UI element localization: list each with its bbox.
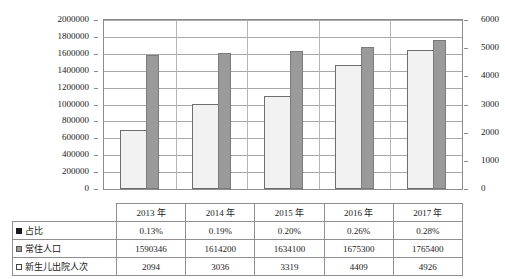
plot-area [103, 19, 463, 190]
left-axis-tick-label: 200000 [62, 167, 89, 176]
bar-resident-population [218, 53, 231, 189]
chart-area: 0200000400000600000800000100000012000001… [0, 0, 505, 196]
series-legend-label: 占比 [13, 222, 117, 240]
left-axis-tick-mark [94, 155, 98, 156]
table-row: 常住人口15903461614200163410016753001765400 [13, 240, 463, 258]
series-legend-label: 常住人口 [13, 240, 117, 258]
series-name-text: 新生儿出院人次 [25, 262, 88, 272]
left-axis-tick-mark [94, 54, 98, 55]
left-axis-tick-mark [94, 105, 98, 106]
left-axis-tick-label: 1200000 [58, 83, 90, 92]
right-axis-tick-label: 1000 [481, 156, 499, 165]
chart-figure: 0200000400000600000800000100000012000001… [0, 0, 505, 279]
left-axis-tick-label: 600000 [62, 133, 89, 142]
data-cell: 2094 [117, 258, 186, 276]
table-row: 占比0.13%0.19%0.20%0.26%0.28% [13, 222, 463, 240]
data-cell: 0.19% [186, 222, 255, 240]
data-cell: 4409 [324, 258, 393, 276]
bar-resident-population [433, 40, 446, 189]
right-axis-tick-label: 2000 [481, 128, 499, 137]
left-axis-tick-label: 1600000 [58, 49, 90, 58]
series-name-text: 占比 [25, 226, 43, 236]
left-axis-tick-mark [94, 88, 98, 89]
data-cell: 0.13% [117, 222, 186, 240]
right-axis-tick-label: 5000 [481, 43, 499, 52]
bar-newborn-discharges [335, 65, 364, 189]
bar-newborn-discharges [264, 96, 293, 189]
right-axis-tick-mark [464, 105, 468, 106]
right-axis-tick-mark [464, 20, 468, 21]
category-divider [176, 20, 177, 189]
table-corner-cell [13, 204, 117, 222]
left-axis-tick-mark [94, 138, 98, 139]
bar-newborn-discharges [120, 130, 149, 189]
data-cell: 1614200 [186, 240, 255, 258]
right-axis-tick-label: 0 [481, 184, 486, 193]
left-axis-tick-mark [94, 189, 98, 190]
left-axis-tick-label: 800000 [62, 116, 89, 125]
data-cell: 1765400 [393, 240, 462, 258]
category-header-5: 2017 年 [393, 204, 462, 222]
right-axis-tick-label: 6000 [481, 15, 499, 24]
right-axis-tick-label: 4000 [481, 71, 499, 80]
left-axis-tick-mark [94, 121, 98, 122]
right-axis-tick-mark [464, 76, 468, 77]
data-cell: 3036 [186, 258, 255, 276]
left-axis-tick-label: 0 [85, 184, 90, 193]
category-divider [390, 20, 391, 189]
data-cell: 1675300 [324, 240, 393, 258]
left-axis-tick-label: 2000000 [58, 15, 90, 24]
category-divider [247, 20, 248, 189]
bar-newborn-discharges [192, 104, 221, 190]
right-axis-tick-mark [464, 161, 468, 162]
left-axis-tick-label: 1400000 [58, 66, 90, 75]
bar-newborn-discharges [407, 50, 436, 189]
right-value-axis: 0100020003000400050006000 [470, 0, 505, 196]
left-axis-tick-mark [94, 172, 98, 173]
data-cell: 0.20% [255, 222, 324, 240]
category-header-4: 2016 年 [324, 204, 393, 222]
left-value-axis: 0200000400000600000800000100000012000001… [0, 0, 98, 196]
left-axis-tick-mark [94, 20, 98, 21]
data-cell: 4926 [393, 258, 462, 276]
category-header-2: 2014 年 [186, 204, 255, 222]
data-cell: 1634100 [255, 240, 324, 258]
left-axis-tick-mark [94, 71, 98, 72]
category-header-3: 2015 年 [255, 204, 324, 222]
table-row: 新生儿出院人次20943036331944094926 [13, 258, 463, 276]
series-name-text: 常住人口 [25, 244, 61, 254]
right-axis-tick-label: 3000 [481, 100, 499, 109]
gray-square-icon [16, 246, 22, 252]
left-axis-tick-label: 1000000 [58, 100, 90, 109]
right-axis-tick-mark [464, 48, 468, 49]
bar-resident-population [361, 47, 374, 189]
right-axis-tick-mark [464, 189, 468, 190]
category-header-1: 2013 年 [117, 204, 186, 222]
right-axis-tick-mark [464, 133, 468, 134]
data-cell: 0.28% [393, 222, 462, 240]
data-cell: 0.26% [324, 222, 393, 240]
left-axis-tick-mark [94, 37, 98, 38]
category-divider [319, 20, 320, 189]
table-header-row: 2013 年2014 年2015 年2016 年2017 年 [13, 204, 463, 222]
gridline [104, 20, 462, 21]
left-axis-tick-label: 400000 [62, 150, 89, 159]
series-legend-label: 新生儿出院人次 [13, 258, 117, 276]
bar-resident-population [290, 51, 303, 189]
white-square-icon [16, 264, 22, 270]
black-square-icon [16, 228, 22, 234]
gridline [104, 37, 462, 38]
data-cell: 3319 [255, 258, 324, 276]
left-axis-tick-label: 1800000 [58, 32, 90, 41]
bar-resident-population [146, 55, 159, 189]
data-table: 2013 年2014 年2015 年2016 年2017 年占比0.13%0.1… [12, 203, 463, 276]
data-cell: 1590346 [117, 240, 186, 258]
